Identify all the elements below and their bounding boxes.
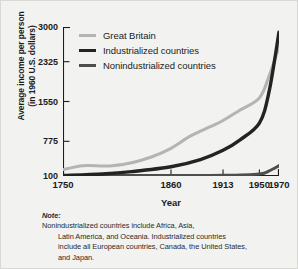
x-axis-tick-label: 1913 [212,179,233,190]
y-axis-tick-label: 2325 [38,57,58,67]
legend-label: Nonindustrialized countries [103,60,216,71]
note-line: Latin America, and Oceania. Industrializ… [42,232,282,242]
legend-label: Great Britain [103,30,156,41]
x-axis-tick-label: 1970 [268,179,289,190]
legend-swatch-icon [79,49,96,52]
y-axis-title-line2: (in 1960 U.S. dollars) [27,25,37,106]
note-label: Note: [42,211,61,220]
y-axis-tick-label: 3000 [38,22,58,32]
note-line: and Japan. [42,253,282,263]
x-axis-tick-label: 1860 [160,179,181,190]
y-axis-tick-label: 775 [43,136,58,146]
legend-item: Nonindustrialized countries [79,59,216,71]
x-axis-tick-label: 1750 [52,179,73,190]
legend-swatch-icon [79,64,96,67]
chart-figure: Average income per person (in 1960 U.S. … [0,0,298,269]
chart-note: Note: Nonindustrialized countries includ… [42,211,282,263]
legend-item: Great Britain [79,29,216,41]
y-axis-title-line1: Average income per person [16,11,26,120]
legend-swatch-icon [79,34,96,37]
x-axis-title: Year [63,197,279,208]
legend-item: Industrialized countries [79,44,216,56]
chart-legend: Great BritainIndustrialized countriesNon… [79,29,216,71]
legend-label: Industrialized countries [103,45,199,56]
note-line: include all European countries, Canada, … [42,242,282,252]
y-axis-tick-label: 1550 [38,97,58,107]
note-body: Nonindustrialized countries include Afri… [42,221,282,263]
note-line: Nonindustrialized countries include Afri… [42,221,194,230]
x-axis-tick-label: 1950 [249,179,270,190]
